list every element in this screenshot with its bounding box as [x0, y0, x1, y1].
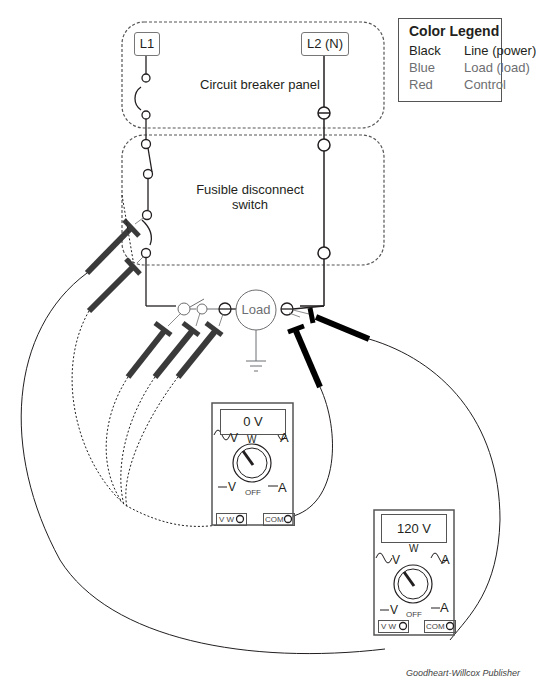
meter-2-ac-a: A: [441, 552, 450, 567]
legend-key: Black: [409, 43, 464, 58]
meter-1-off: OFF: [245, 488, 261, 497]
ground-icon: [246, 330, 266, 371]
meter-2-jack-com[interactable]: COM: [424, 620, 456, 633]
legend-key: Blue: [409, 60, 464, 75]
meter-1-reading: 0 V: [243, 414, 263, 429]
l2-line: [300, 56, 330, 306]
publisher-credit: Goodheart-Willcox Publisher: [406, 668, 520, 678]
probes-gray: [87, 220, 222, 377]
meter-2-display: 120 V: [381, 514, 447, 543]
meter-2-ac-v: V: [392, 553, 400, 567]
legend-value: Line (power): [464, 43, 536, 58]
legend-value: Load (load): [464, 60, 530, 75]
l1-line: [135, 56, 176, 306]
terminal-l2-label: L2 (N): [307, 36, 343, 51]
legend-value: Control: [464, 77, 506, 92]
meter-2-reading: 120 V: [397, 521, 431, 536]
disconnect-label-line2: switch: [180, 197, 320, 212]
meter-1-jack-com-label: COM: [265, 515, 284, 524]
disconnect-label-line1: Fusible disconnect: [180, 182, 320, 197]
terminal-l1: L1: [134, 32, 160, 56]
meter-1-jack-vw[interactable]: V W: [216, 513, 247, 526]
meter-1-dc-a: A: [278, 480, 287, 495]
legend-title: Color Legend: [409, 23, 499, 39]
meter-2-off: OFF: [406, 610, 422, 619]
meter-2-jack-vw-label: V W: [381, 622, 396, 631]
meter-2-dial-w: W: [409, 543, 418, 554]
meter-1-dial-w: W: [247, 434, 256, 445]
meter-2-dc-a: A: [440, 600, 449, 615]
probes-black: [288, 308, 369, 387]
breaker-panel-label: Circuit breaker panel: [180, 77, 340, 92]
color-legend: Color Legend Black Line (power) Blue Loa…: [398, 18, 502, 102]
meter-2-jack-com-label: COM: [426, 622, 445, 631]
meter-1-dc-v: V: [228, 480, 236, 494]
meter-1-jack-vw-label: V W: [219, 515, 234, 524]
meter-2-jack-vw[interactable]: V W: [378, 620, 409, 633]
dashed-test-leads: [72, 195, 225, 526]
meter-1-ac-v: V: [230, 431, 238, 445]
terminal-l2: L2 (N): [301, 32, 349, 56]
load-label: Load: [236, 302, 276, 317]
meter-2-dc-v: V: [390, 603, 398, 617]
terminal-l1-label: L1: [140, 36, 154, 51]
meter-1-jack-com[interactable]: COM: [263, 513, 295, 526]
legend-key: Red: [409, 77, 464, 92]
control-switches: [178, 299, 220, 315]
meter-1-ac-a: A: [280, 430, 289, 445]
